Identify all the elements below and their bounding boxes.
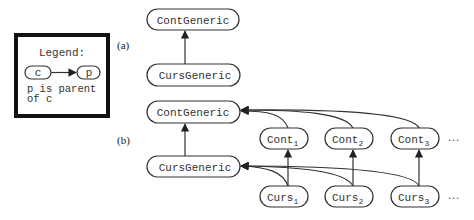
svg-text:c: c xyxy=(35,67,42,79)
curs-ellipsis: ... xyxy=(448,188,460,202)
curs-node-1: Curs1 xyxy=(260,186,308,207)
edge-curs1-to-cursgeneric xyxy=(241,166,288,186)
part-a-contgeneric-node: ContGeneric xyxy=(147,9,239,30)
part-b-cursgeneric-node: CursGeneric xyxy=(147,156,240,177)
cont-ellipsis: ... xyxy=(448,130,460,144)
part-a-cursgeneric-node: CursGeneric xyxy=(147,64,240,86)
cont-node-3: Cont3 xyxy=(391,128,439,149)
curs-node-3: Curs3 xyxy=(391,186,439,207)
cont-node-1: Cont1 xyxy=(260,128,308,149)
svg-text:ContGeneric: ContGeneric xyxy=(157,15,230,27)
part-a-label: (a) xyxy=(117,39,130,52)
svg-text:ContGeneric: ContGeneric xyxy=(157,107,230,119)
legend-parent-node: p xyxy=(77,66,100,79)
part-b-contgeneric-node: ContGeneric xyxy=(147,101,240,123)
part-b-label: (b) xyxy=(117,134,130,147)
curs-node-2: Curs2 xyxy=(325,186,373,207)
inheritance-diagram: Legend: c p p is parent of c (a) ContGen… xyxy=(0,0,474,220)
svg-text:CursGeneric: CursGeneric xyxy=(159,70,232,82)
legend-child-node: c xyxy=(25,66,51,79)
edge-cont2-to-contgeneric xyxy=(241,110,353,128)
legend-title: Legend: xyxy=(39,47,85,59)
legend-box: Legend: c p p is parent of c xyxy=(16,35,108,116)
svg-text:CursGeneric: CursGeneric xyxy=(159,162,232,174)
cont-node-2: Cont2 xyxy=(325,128,373,149)
edge-curs2-to-cursgeneric xyxy=(241,166,353,186)
edge-cont1-to-contgeneric xyxy=(241,111,288,128)
svg-text:p: p xyxy=(86,67,93,79)
legend-description-line2: of c xyxy=(27,93,52,105)
